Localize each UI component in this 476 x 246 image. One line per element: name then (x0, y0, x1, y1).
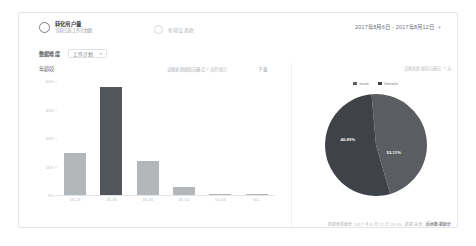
pie-svg (324, 93, 428, 197)
charts-region: 年龄段 该图表数据取自最近 7 天的统计 下载 60%45%30%15%0% 1… (19, 63, 457, 229)
filter-row: 数据维度 工作计划 ▾ (39, 49, 107, 58)
pie-slices (325, 94, 427, 196)
metric-secondary-label: 新增设备数 (168, 26, 194, 33)
legend-label: female (384, 81, 398, 86)
legend-swatch (353, 82, 357, 86)
bar-chart-plot: 60%45%30%15%0% 18-2425-3435-4445-5455-64… (39, 81, 275, 207)
bar-chart-x-axis: 18-2425-3435-4445-5455-6465+ (57, 197, 275, 202)
bar-chart-toolbar: 年龄段 该图表数据取自最近 7 天的统计 下载 (19, 63, 291, 77)
bar-slot[interactable] (166, 81, 202, 195)
legend-swatch (378, 82, 382, 86)
dimension-select-value: 工作计划 (73, 50, 94, 57)
bar-chart-bars (57, 81, 275, 196)
y-axis-tick: 15% (46, 164, 54, 169)
x-axis-label: 65+ (239, 197, 275, 202)
y-axis-tick: 30% (46, 136, 54, 141)
date-range-picker[interactable]: 2017年8月6日 - 2017年8月12日 ▾ (355, 23, 441, 31)
bar-chart-panel: 年龄段 该图表数据取自最近 7 天的统计 下载 60%45%30%15%0% 1… (19, 63, 291, 229)
metric-option-primary[interactable]: 转化用户量 当前已选工作计划数 (39, 21, 92, 33)
metric-primary-text: 转化用户量 当前已选工作计划数 (55, 21, 92, 33)
pie-footer-source: 后台数据统计 (426, 222, 451, 227)
bar[interactable] (137, 161, 159, 195)
pie-chart-legend: malefemale (292, 81, 459, 86)
bar-slot[interactable] (239, 81, 275, 195)
x-axis-label: 55-64 (202, 197, 238, 202)
y-axis-tick: 0% (48, 193, 54, 198)
x-axis-label: 35-44 (130, 197, 166, 202)
dimension-select[interactable]: 工作计划 ▾ (68, 49, 107, 58)
metric-primary-sublabel: 当前已选工作计划数 (55, 28, 92, 33)
pie-chart-caption: 该图表数据取自最近 7 天 (404, 65, 451, 71)
dashboard-page: 转化用户量 当前已选工作计划数 新增设备数 2017年8月6日 - 2017年8… (0, 0, 476, 246)
bar[interactable] (209, 194, 231, 195)
y-axis-tick: 60% (46, 79, 54, 84)
legend-item[interactable]: male (353, 81, 369, 86)
radio-circle-icon[interactable] (39, 22, 50, 33)
analytics-card: 转化用户量 当前已选工作计划数 新增设备数 2017年8月6日 - 2017年8… (18, 12, 458, 228)
legend-item[interactable]: female (378, 81, 398, 86)
bar-chart-y-axis: 60%45%30%15%0% (39, 81, 57, 195)
bar[interactable] (246, 194, 268, 195)
chevron-down-icon: ▾ (438, 24, 441, 30)
date-range-value: 2017年8月6日 - 2017年8月12日 (355, 23, 434, 31)
bar[interactable] (64, 153, 86, 195)
bar[interactable] (173, 187, 195, 195)
bar-slot[interactable] (57, 81, 93, 195)
metric-primary-label: 转化用户量 (55, 21, 92, 27)
pie-chart-footer: 数据更新截至 2017 年 8 月 12 日 23:59，数据来源：后台数据统计 (328, 221, 451, 227)
bar-chart-note: 该图表数据取自最近 7 天的统计 (167, 66, 227, 72)
bar-slot[interactable] (202, 81, 238, 195)
bar[interactable] (100, 87, 122, 195)
radio-circle-muted-icon[interactable] (154, 25, 163, 34)
x-axis-label: 25-34 (93, 197, 129, 202)
pie-footer-note: 数据更新截至 2017 年 8 月 12 日 23:59，数据来源： (328, 222, 426, 227)
pie-label-female: 53.11% (387, 150, 402, 155)
chevron-down-icon: ▾ (100, 52, 102, 56)
pie-chart-graphic: 46.89% 53.11% (324, 93, 428, 197)
bar-chart-download-button[interactable]: 下载 (255, 65, 271, 73)
card-header: 转化用户量 当前已选工作计划数 新增设备数 2017年8月6日 - 2017年8… (19, 13, 457, 43)
metric-option-secondary[interactable]: 新增设备数 (154, 25, 194, 34)
y-axis-tick: 45% (46, 107, 54, 112)
x-axis-label: 45-54 (166, 197, 202, 202)
pie-chart-panel: 该图表数据取自最近 7 天 malefemale 46.89% 53.11% 数… (291, 63, 459, 229)
filter-label: 数据维度 (39, 50, 60, 57)
bar-slot[interactable] (93, 81, 129, 195)
x-axis-label: 18-24 (57, 197, 93, 202)
bar-slot[interactable] (130, 81, 166, 195)
pie-label-male: 46.89% (341, 137, 356, 142)
bar-chart-title: 年龄段 (39, 65, 55, 72)
legend-label: male (359, 81, 369, 86)
